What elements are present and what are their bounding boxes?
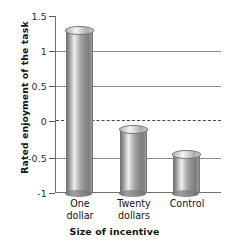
x-category-label-twenty-dollars-line1: Twenty [117,198,151,209]
bar-control [173,154,200,193]
bar-cap-control [172,150,201,159]
tick-1.5 [49,16,55,17]
tick-1 [49,51,55,52]
x-axis-title: Size of incentive [0,226,229,237]
tick-minus-0.5 [49,158,55,159]
bar-one-dollar [66,30,93,193]
bar-base-twenty-dollars [119,190,146,197]
y-tick-label-0.5: 0.5 [31,81,47,92]
bar-base-control [172,190,199,197]
x-category-label-one-dollar-line1: One [70,198,90,209]
tick-0 [49,121,55,122]
gridline-1.5: 1.5 [56,16,221,17]
y-tick-label-1.5: 1.5 [31,11,47,22]
y-tick-label-0: 0 [41,116,47,127]
y-tick-label-minus-1: -1 [37,188,47,199]
bar-cap-twenty-dollars [119,125,148,134]
x-category-label-control: Control [150,198,224,210]
plot-area: 1.5 1 0.5 0 -0.5 -1 [56,16,221,193]
y-axis-line [55,16,56,193]
bar-twenty-dollars [120,129,147,193]
bar-base-one-dollar [65,190,92,197]
bar-chart-figure: Rated enjoyment of the task 1.5 1 0.5 0 … [0,0,229,246]
x-category-label-control-line1: Control [170,198,205,209]
tick-minus-1 [49,193,55,194]
y-tick-label-minus-0.5: -0.5 [28,153,47,164]
x-category-label-twenty-dollars-line2: dollars [97,210,171,222]
y-tick-label-1: 1 [41,46,47,57]
tick-0.5 [49,86,55,87]
bar-cap-one-dollar [65,26,94,35]
